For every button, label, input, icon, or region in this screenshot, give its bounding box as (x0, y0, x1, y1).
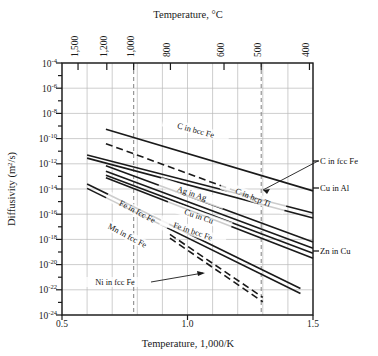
y-axis-title-text: Diffusivity (m (6, 166, 18, 226)
chart-background (0, 0, 378, 356)
x-tick-label-1.5: 1.5 (307, 319, 319, 329)
curve-label-ni-in-fcc-fe: Ni in fcc Fe (95, 278, 135, 287)
top-tick-label-1200: 1,200 (99, 35, 109, 57)
x-tick-label-1.0: 1.0 (182, 319, 194, 329)
side-label-c-in-fcc-fe: C in fcc Fe (320, 156, 358, 166)
top-tick-label-800: 800 (162, 43, 172, 58)
diffusivity-chart-svg: Temperature, °C 1,5001,2001,000800600500… (0, 0, 378, 356)
bottom-axis-title: Temperature, 1,000/K (142, 338, 235, 349)
y-axis-title: Diffusivity (m2/s) (6, 151, 18, 226)
top-tick-label-500: 500 (253, 43, 263, 58)
side-label-zn-in-cu: Zn in Cu (320, 246, 351, 256)
side-label-cu-in-al: Cu in Al (320, 183, 350, 193)
top-tick-label-600: 600 (216, 43, 226, 58)
top-tick-label-400: 400 (301, 43, 311, 58)
top-axis-title: Temperature, °C (153, 9, 222, 20)
diffusivity-chart-figure: Temperature, °C 1,5001,2001,000800600500… (0, 0, 378, 356)
top-tick-label-1000: 1,000 (126, 35, 136, 57)
top-tick-label-1500: 1,500 (70, 35, 80, 57)
x-tick-label-0.5: 0.5 (56, 319, 68, 329)
